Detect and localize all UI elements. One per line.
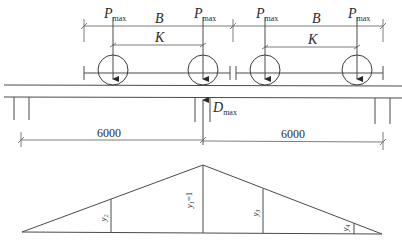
crane-load-influence-diagram: Pmax Pmax Pmax Pmax B B K K bbox=[0, 0, 402, 244]
column-right bbox=[375, 98, 390, 124]
svg-text:Dmax: Dmax bbox=[212, 100, 237, 117]
span-right-value: 6000 bbox=[281, 127, 305, 141]
ordinate-y3-label: y3 bbox=[250, 210, 261, 218]
reaction-Dmax: Dmax bbox=[203, 100, 237, 145]
ordinate-y1-label: y1=1 bbox=[184, 192, 195, 210]
ordinate-y4-label: y4 bbox=[340, 225, 351, 233]
svg-text:Pmax: Pmax bbox=[193, 6, 216, 23]
label-K-left: K bbox=[154, 30, 165, 45]
column-left bbox=[14, 97, 29, 120]
svg-text:Pmax: Pmax bbox=[255, 6, 278, 23]
beam-top-line bbox=[4, 97, 402, 98]
load-label-2: Pmax bbox=[193, 6, 216, 23]
svg-text:Pmax: Pmax bbox=[103, 6, 126, 23]
load-label-1: Pmax bbox=[103, 6, 126, 23]
load-label-4: Pmax bbox=[347, 6, 370, 23]
label-K-right: K bbox=[307, 32, 318, 47]
ordinate-y2-label: y2 bbox=[98, 215, 109, 223]
crane-axle-right bbox=[236, 66, 383, 80]
influence-line: y1=1 y2 y3 y4 bbox=[22, 165, 382, 234]
load-label-3: Pmax bbox=[255, 6, 278, 23]
wheel-4 bbox=[342, 17, 372, 85]
span-left-value: 6000 bbox=[97, 126, 121, 140]
dimension-K-left: K bbox=[110, 30, 206, 47]
svg-text:Pmax: Pmax bbox=[347, 6, 370, 23]
wheel-1 bbox=[98, 17, 128, 85]
dimension-span-left: 6000 bbox=[18, 126, 206, 147]
label-B-right: B bbox=[312, 11, 321, 26]
wheel-3 bbox=[250, 17, 280, 85]
wheel-2 bbox=[188, 17, 218, 85]
dimension-K-right: K bbox=[262, 32, 360, 49]
label-B-left: B bbox=[155, 11, 164, 26]
rail-line bbox=[4, 85, 402, 86]
crane-axle-left bbox=[84, 66, 230, 80]
dimension-span-right: 6000 bbox=[203, 127, 386, 150]
